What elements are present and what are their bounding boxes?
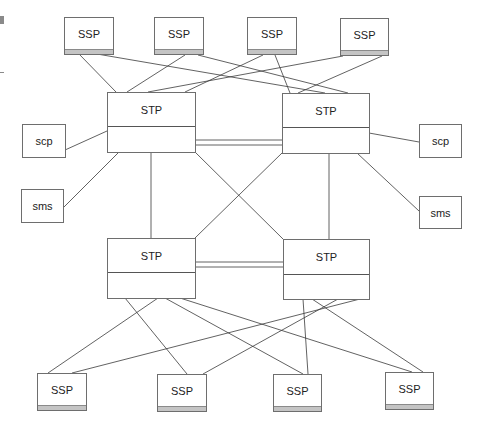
ssp-node: SSP xyxy=(247,17,297,55)
node-label: STP xyxy=(283,94,369,128)
ssp-bar xyxy=(38,405,86,410)
connection-lines xyxy=(0,0,479,435)
ssp-bar xyxy=(274,406,321,411)
ssp-node: SSP xyxy=(154,17,204,55)
ssp-bar xyxy=(341,50,388,55)
sms-node: sms xyxy=(419,196,462,229)
sms-node: sms xyxy=(21,189,64,223)
ssp-node: SSP xyxy=(64,17,114,55)
node-label: STP xyxy=(108,93,195,127)
stp-node: STP xyxy=(282,93,370,154)
node-label: SSP xyxy=(341,19,388,50)
ss7-network-diagram: SSP SSP SSP SSP STP STP STP STP scp sms … xyxy=(0,0,479,435)
stp-node: STP xyxy=(283,239,370,300)
ssp-node: SSP xyxy=(385,372,434,410)
ssp-bar xyxy=(248,49,296,54)
node-label: SSP xyxy=(248,18,296,49)
node-label: scp xyxy=(23,125,65,157)
ssp-node: SSP xyxy=(273,374,322,412)
node-label: SSP xyxy=(158,375,206,406)
node-label: SSP xyxy=(65,18,113,49)
ssp-bar xyxy=(65,49,113,54)
ssp-node: SSP xyxy=(37,373,87,411)
edge-artifact xyxy=(0,72,4,73)
node-label: scp xyxy=(420,125,461,157)
ssp-node: SSP xyxy=(157,374,207,412)
node-label: STP xyxy=(108,239,195,273)
node-label: SSP xyxy=(386,373,433,404)
node-label: SSP xyxy=(274,375,321,406)
edge-artifact xyxy=(0,16,4,24)
ssp-bar xyxy=(386,404,433,409)
ssp-bar xyxy=(158,406,206,411)
node-label: sms xyxy=(420,197,461,228)
node-label: SSP xyxy=(155,18,203,49)
node-label: sms xyxy=(22,190,63,222)
ssp-bar xyxy=(155,49,203,54)
stp-node: STP xyxy=(107,92,196,153)
node-label: SSP xyxy=(38,374,86,405)
stp-node: STP xyxy=(107,238,196,299)
ssp-node: SSP xyxy=(340,18,389,56)
node-label: STP xyxy=(284,240,369,275)
scp-node: scp xyxy=(22,124,66,158)
scp-node: scp xyxy=(419,124,462,158)
